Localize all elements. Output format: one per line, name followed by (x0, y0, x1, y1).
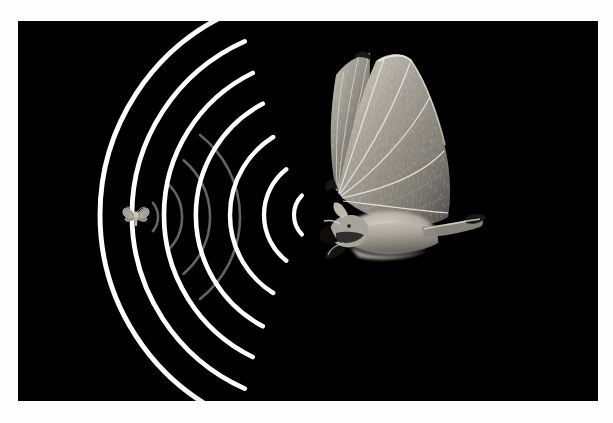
photo-frame: bat moth outgoing call returning echo Ba… (0, 0, 613, 423)
night-background (18, 21, 598, 401)
bat-eye (347, 224, 351, 228)
scene-illustration (18, 21, 598, 401)
photograph: bat moth outgoing call returning echo Ba… (18, 21, 598, 401)
